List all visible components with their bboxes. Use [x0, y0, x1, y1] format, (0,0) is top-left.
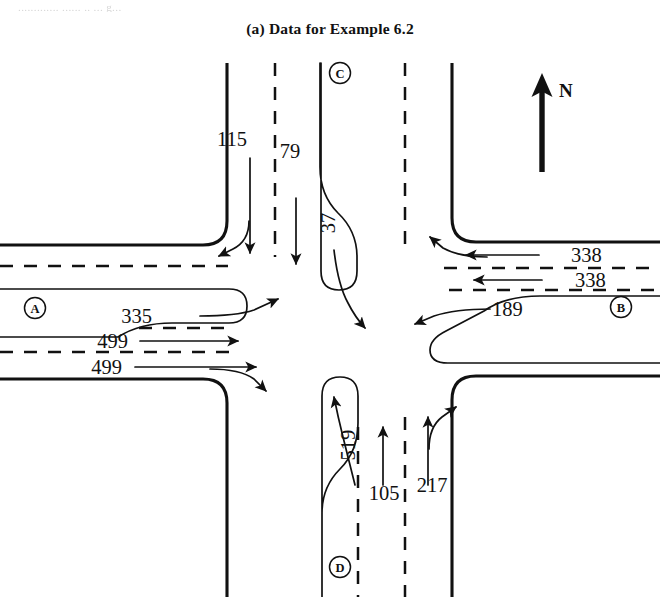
- node-label-c: C: [330, 63, 351, 84]
- volume-label-a-through-lower: 499: [91, 356, 122, 378]
- volume-label-b-through-lower: 338: [575, 269, 606, 291]
- node-label-d: D: [330, 557, 351, 578]
- volume-label-c-through: 79: [280, 140, 301, 162]
- node-label-d-text: D: [335, 561, 344, 575]
- node-label-b-text: B: [617, 301, 625, 315]
- node-label-b: B: [611, 297, 632, 318]
- node-label-c-text: C: [335, 67, 344, 81]
- volume-label-d-left: 519: [337, 430, 359, 461]
- figure-caption: (a) Data for Example 6.2: [0, 20, 660, 38]
- volume-arrow-a-right-turn: [210, 369, 266, 391]
- node-label-a-text: A: [30, 302, 39, 316]
- road-edge-southwest: [0, 379, 227, 597]
- intersection-diagram: 115 79 37 338 338 189 335 499 499 519 10…: [0, 45, 660, 597]
- median-island-north: [320, 63, 357, 290]
- volume-arrow-a-left-turn: [200, 299, 278, 316]
- north-arrow-label: N: [559, 80, 573, 101]
- node-label-a: A: [25, 298, 46, 319]
- volume-label-b-through-upper: 338: [571, 244, 602, 266]
- north-arrow: N: [532, 73, 574, 172]
- page-top-text-fragment: ............. ...... .. ... g...: [18, 1, 348, 12]
- intersection-svg: 115 79 37 338 338 189 335 499 499 519 10…: [0, 45, 660, 597]
- road-edge-northeast: [452, 63, 660, 242]
- road-edge-southeast: [452, 376, 660, 597]
- road-edge-northwest: [0, 63, 227, 245]
- volume-label-c-through-right: 115: [217, 128, 247, 150]
- volume-label-b-left: 189: [492, 298, 523, 320]
- volume-arrow-c-left-turn: [334, 250, 365, 328]
- volume-label-c-left: 37: [317, 213, 339, 234]
- volume-arrow-b-right-turn: [430, 237, 487, 257]
- volume-label-a-left: 335: [121, 305, 152, 327]
- volume-label-a-through-upper: 499: [97, 330, 128, 352]
- volume-arrow-b-left-turn: [415, 309, 490, 324]
- volume-label-d-through-right: 217: [417, 474, 448, 496]
- volume-label-d-through: 105: [369, 482, 400, 504]
